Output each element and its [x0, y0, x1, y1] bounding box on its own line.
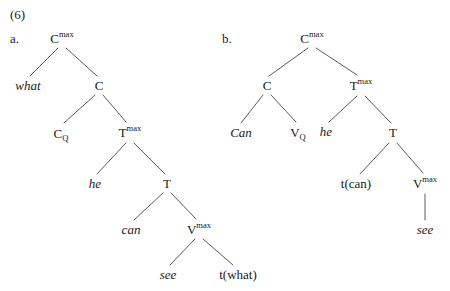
node-cq-a-subscript: Q: [62, 133, 68, 143]
branch-t-can-a: [134, 193, 163, 220]
node-he-b: he: [320, 125, 332, 138]
node-he-a: he: [89, 177, 101, 190]
node-tmax-a-text: T: [119, 125, 127, 140]
node-t-can-b: t(can): [341, 177, 371, 190]
node-cmax-a: Cmax: [50, 32, 73, 45]
syntax-tree-figure: (6) a.CmaxwhatCCQTmaxheTcanVmaxseet(what…: [0, 0, 450, 291]
node-tmax-b: Tmax: [350, 79, 373, 92]
node-vmax-a-superscript: max: [196, 220, 211, 230]
branch-cmax-c-b: [269, 48, 308, 76]
branch-t-tcan-b: [360, 143, 389, 174]
branch-c-cq-a: [64, 95, 95, 123]
node-c-b: C: [263, 79, 272, 92]
node-t-b-text: T: [389, 125, 397, 140]
node-c-a-text: C: [95, 78, 104, 93]
node-cq-a-text: C: [54, 126, 63, 141]
node-vmax-b-text: V: [413, 176, 422, 191]
node-can-b-text: Can: [230, 125, 252, 140]
node-tmax-a-superscript: max: [127, 123, 142, 133]
node-t-what-a-text: t(what): [219, 267, 257, 282]
node-can-b: Can: [230, 126, 252, 139]
branch-c-can-b: [241, 95, 263, 123]
node-c-b-text: C: [263, 78, 272, 93]
node-see-a: see: [160, 268, 177, 281]
branch-tmax-he-a: [97, 143, 126, 174]
node-cmax-a-text: C: [50, 31, 59, 46]
tree-letter-1: b.: [222, 32, 232, 45]
node-he-b-text: he: [320, 124, 332, 139]
node-he-a-text: he: [89, 176, 101, 191]
node-vq-b-text: V: [290, 125, 299, 140]
node-can-a: can: [122, 223, 141, 236]
node-vmax-a-text: V: [187, 222, 196, 237]
node-see-b-text: see: [417, 222, 434, 237]
branch-c-vq-b: [271, 95, 296, 122]
branch-c-tmax-a: [103, 95, 126, 122]
branch-tmax-he-b: [329, 96, 357, 122]
node-see-a-text: see: [160, 267, 177, 282]
node-c-a: C: [95, 79, 104, 92]
node-tmax-a: Tmax: [119, 126, 142, 139]
node-t-what-a: t(what): [219, 268, 257, 281]
node-cmax-a-superscript: max: [59, 29, 74, 39]
branch-vmax-see-a: [170, 239, 195, 265]
node-t-can-b-text: t(can): [341, 176, 371, 191]
node-tmax-b-superscript: max: [358, 76, 373, 86]
branch-cmax-tmax-b: [316, 48, 357, 75]
node-t-a: T: [163, 177, 171, 190]
node-cmax-b-text: C: [300, 31, 309, 46]
node-see-b: see: [417, 223, 434, 236]
branch-t-vmax-b: [397, 143, 423, 173]
example-number-label: (6): [10, 8, 25, 21]
node-what-a-text: what: [15, 78, 40, 93]
node-t-a-text: T: [163, 176, 171, 191]
node-t-b: T: [389, 126, 397, 139]
node-cmax-b-superscript: max: [309, 29, 324, 39]
node-vq-b: VQ: [290, 126, 306, 139]
branch-tmax-t-a: [134, 143, 165, 174]
node-cmax-b: Cmax: [300, 32, 323, 45]
branch-tmax-t-b: [365, 96, 391, 123]
branch-vmax-twhat-a: [203, 239, 233, 265]
node-can-a-text: can: [122, 222, 141, 237]
node-tmax-b-text: T: [350, 78, 358, 93]
branch-cmax-what-a: [30, 48, 58, 76]
tree-letter-0: a.: [10, 32, 19, 45]
node-vmax-b: Vmax: [413, 177, 437, 190]
node-vq-b-subscript: Q: [300, 132, 306, 142]
node-vmax-b-superscript: max: [422, 174, 437, 184]
node-what-a: what: [15, 79, 40, 92]
branch-cmax-c-a: [66, 48, 97, 76]
branch-t-vmax-a: [171, 193, 196, 219]
node-cq-a: CQ: [54, 127, 69, 140]
node-vmax-a: Vmax: [187, 223, 211, 236]
